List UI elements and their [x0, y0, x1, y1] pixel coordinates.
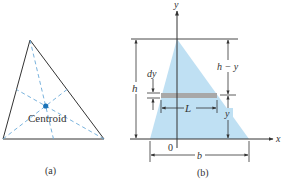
median-lines — [3, 40, 104, 139]
shaded-triangle — [150, 39, 249, 139]
diagram-canvas: Centroid (a) y x 0 h dy L — [0, 0, 287, 187]
triangle-outline — [3, 40, 104, 139]
centroid-label: Centroid — [28, 112, 67, 124]
h-label: h — [132, 82, 138, 94]
figure-b: y x 0 h dy L h − y y b (b) — [130, 0, 281, 179]
caption-a: (a) — [45, 165, 56, 177]
l-label: L — [184, 102, 191, 114]
dy-label: dy — [147, 68, 157, 79]
y-segment-label: y — [224, 108, 230, 119]
b-label: b — [197, 150, 202, 161]
y-axis-label: y — [173, 0, 179, 10]
centroid-dot — [43, 103, 48, 108]
figure-a: Centroid (a) — [3, 40, 104, 177]
h-minus-y-label: h − y — [217, 61, 239, 72]
origin-label: 0 — [168, 142, 173, 153]
strip-element — [161, 93, 217, 98]
x-axis-label: x — [275, 133, 281, 144]
caption-b: (b) — [197, 167, 209, 179]
